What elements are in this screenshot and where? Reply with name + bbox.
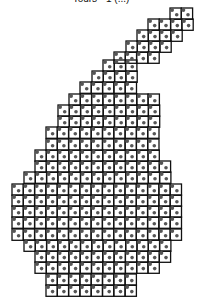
grid-graph-diagram: [0, 0, 202, 299]
